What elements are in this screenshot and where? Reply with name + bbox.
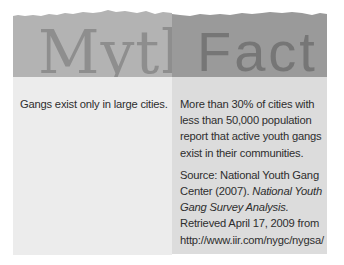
fact-heading: Fact [197, 24, 318, 77]
fact-header-band: Fact [172, 10, 327, 77]
fact-text-block: More than 30% of cities with less than 5… [180, 96, 323, 248]
fact-body: More than 30% of cities with less than 5… [172, 77, 327, 254]
myth-heading: Myth [38, 22, 172, 77]
torn-edge-decoration [172, 10, 327, 18]
fact-statement: More than 30% of cities with less than 5… [180, 96, 323, 161]
source-suffix: Retrieved April 17, 2009 from http://www… [180, 217, 324, 245]
fact-source-citation: Source: National Youth Gang Center (2007… [180, 167, 323, 248]
myth-body: Gangs exist only in large cities. [13, 77, 172, 255]
myth-statement: Gangs exist only in large cities. [20, 96, 170, 112]
myth-header-band: Myth [13, 10, 172, 77]
